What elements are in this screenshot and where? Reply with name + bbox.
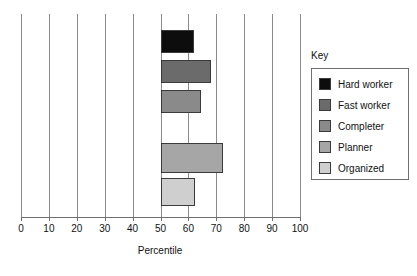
legend-swatch-icon xyxy=(319,120,331,132)
bar-hard-worker xyxy=(161,30,194,53)
gridline-90 xyxy=(272,14,273,217)
x-tick-label-40: 40 xyxy=(118,223,148,235)
legend-item-fast-worker[interactable]: Fast worker xyxy=(319,98,390,112)
x-tick-label-60: 60 xyxy=(173,223,203,235)
x-tick-label-100: 100 xyxy=(285,223,315,235)
tick-mark-40 xyxy=(133,217,134,221)
legend-item-label: Fast worker xyxy=(338,100,390,111)
legend-swatch-icon xyxy=(319,78,331,90)
x-tick-label-80: 80 xyxy=(229,223,259,235)
tick-mark-20 xyxy=(77,217,78,221)
tick-mark-70 xyxy=(216,217,217,221)
tick-mark-30 xyxy=(105,217,106,221)
tick-mark-80 xyxy=(244,217,245,221)
gridline-40 xyxy=(133,14,134,217)
tick-mark-50 xyxy=(161,217,162,221)
tick-mark-60 xyxy=(188,217,189,221)
legend-item-label: Hard worker xyxy=(338,79,392,90)
tick-mark-0 xyxy=(21,217,22,221)
legend-swatch-icon xyxy=(319,99,331,111)
x-tick-label-10: 10 xyxy=(34,223,64,235)
legend-item-label: Completer xyxy=(338,121,384,132)
legend-item-completer[interactable]: Completer xyxy=(319,119,384,133)
gridline-10 xyxy=(49,14,50,217)
bar-organized xyxy=(161,178,196,206)
x-tick-label-50: 50 xyxy=(146,223,176,235)
x-tick-label-0: 0 xyxy=(6,223,36,235)
legend-title: Key xyxy=(311,50,328,61)
x-tick-label-20: 20 xyxy=(62,223,92,235)
bar-chart: 0102030405060708090100 Percentile Key Ha… xyxy=(0,0,417,276)
x-tick-label-30: 30 xyxy=(90,223,120,235)
tick-mark-100 xyxy=(300,217,301,221)
legend-item-label: Organized xyxy=(338,163,384,174)
gridline-20 xyxy=(77,14,78,217)
legend-item-label: Planner xyxy=(338,142,372,153)
legend-swatch-icon xyxy=(319,162,331,174)
tick-mark-90 xyxy=(272,217,273,221)
gridline-80 xyxy=(244,14,245,217)
legend-box: Hard workerFast workerCompleterPlannerOr… xyxy=(311,68,409,180)
bar-completer xyxy=(161,90,201,113)
bar-planner xyxy=(161,143,224,173)
legend-swatch-icon xyxy=(319,141,331,153)
gridline-30 xyxy=(105,14,106,217)
x-tick-label-90: 90 xyxy=(257,223,287,235)
legend-item-planner[interactable]: Planner xyxy=(319,140,372,154)
legend-item-hard-worker[interactable]: Hard worker xyxy=(319,77,392,91)
legend-item-organized[interactable]: Organized xyxy=(319,161,384,175)
tick-mark-10 xyxy=(49,217,50,221)
bar-fast-worker xyxy=(161,60,211,83)
gridline-0 xyxy=(21,14,22,217)
x-axis-title: Percentile xyxy=(0,245,320,256)
gridline-100 xyxy=(300,14,301,217)
gridline-70 xyxy=(216,14,217,217)
x-tick-label-70: 70 xyxy=(201,223,231,235)
